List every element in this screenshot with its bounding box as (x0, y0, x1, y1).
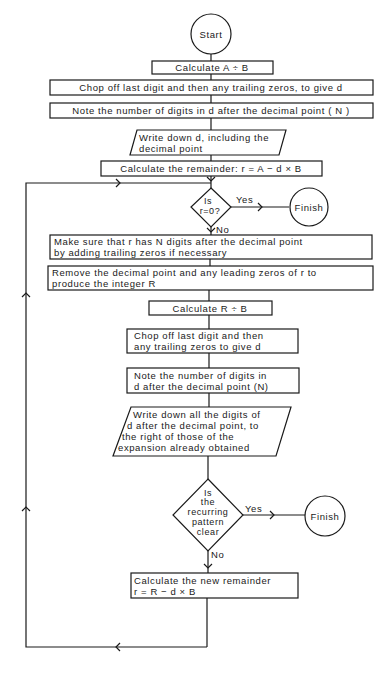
svg-text:r=0?: r=0? (200, 206, 221, 216)
svg-text:Remove the decimal point and a: Remove the decimal point and any leading… (52, 267, 317, 278)
start-terminal: Start (191, 14, 231, 54)
svg-text:Calculate A ÷ B: Calculate A ÷ B (175, 62, 248, 73)
svg-text:expansion already obtained: expansion already obtained (118, 442, 250, 453)
svg-text:produce the integer R: produce the integer R (52, 278, 156, 289)
flowchart-canvas: Start Calculate A ÷ B Chop off last digi… (0, 0, 389, 675)
svg-text:Finish: Finish (295, 202, 324, 213)
step-new-remainder: Calculate the new remainder r = R − d × … (131, 573, 298, 598)
svg-text:the right of those of the: the right of those of the (122, 431, 234, 442)
svg-text:Write down all the digits of: Write down all the digits of (133, 409, 261, 420)
step-write-d: Write down d, including the decimal poin… (130, 130, 286, 155)
no-label: No (216, 224, 229, 235)
decision-pattern-clear: Is the recurring pattern clear (173, 479, 243, 551)
svg-text:Calculate the new remainder: Calculate the new remainder (134, 575, 271, 586)
start-label: Start (199, 29, 222, 40)
step-pad-trailing-zeros: Make sure that r has N digits after the … (50, 235, 372, 259)
svg-text:r = R − d × B: r = R − d × B (134, 586, 196, 597)
step-chop-digit-1: Chop off last digit and then any trailin… (50, 80, 373, 95)
step-note-digits-1: Note the number of digits in d after the… (50, 103, 373, 118)
svg-text:d after the decimal point, to: d after the decimal point, to (127, 420, 259, 431)
no-label: No (211, 549, 224, 560)
step-chop-digit-2: Chop off last digit and then any trailin… (127, 329, 298, 353)
yes-label: Yes (236, 194, 253, 205)
step-note-digits-2: Note the number of digits in d after the… (127, 368, 299, 393)
finish-terminal-1: Finish (290, 188, 328, 226)
decision-r-equals-zero: Is r=0? (191, 188, 231, 227)
svg-text:any trailing zeros to give d: any trailing zeros to give d (134, 341, 261, 352)
svg-text:Make sure that r has N digits: Make sure that r has N digits after the … (54, 236, 303, 247)
svg-text:Note the number of digits in: Note the number of digits in (134, 370, 267, 381)
step-calculate-a-div-b: Calculate A ÷ B (152, 61, 273, 74)
svg-text:pattern: pattern (192, 517, 224, 527)
svg-text:Finish: Finish (311, 511, 340, 522)
step-calculate-remainder: Calculate the remainder: r = A − d × B (101, 161, 322, 176)
step-calculate-r-div-b: Calculate R ÷ B (149, 301, 272, 315)
svg-text:Is: Is (204, 196, 212, 206)
svg-text:Calculate the remainder: r = A: Calculate the remainder: r = A − d × B (120, 163, 302, 174)
svg-text:d after the decimal point (N): d after the decimal point (N) (134, 381, 269, 392)
svg-text:recurring: recurring (188, 507, 229, 517)
svg-text:by adding trailing zeros if ne: by adding trailing zeros if necessary (54, 247, 227, 258)
svg-text:Note the number of digits in d: Note the number of digits in d after the… (72, 105, 349, 116)
svg-text:Chop off last digit and then a: Chop off last digit and then any trailin… (79, 82, 342, 93)
svg-text:the: the (201, 497, 215, 507)
step-remove-decimal-point: Remove the decimal point and any leading… (48, 266, 373, 290)
finish-terminal-2: Finish (305, 496, 345, 536)
svg-text:Calculate R ÷ B: Calculate R ÷ B (173, 303, 248, 314)
step-write-digits: Write down all the digits of d after the… (113, 407, 291, 456)
svg-text:Chop off last digit and then: Chop off last digit and then (134, 330, 264, 341)
svg-text:decimal point: decimal point (139, 143, 203, 154)
svg-text:Write down d, including the: Write down d, including the (139, 132, 269, 143)
svg-text:clear: clear (197, 527, 220, 537)
yes-label: Yes (245, 503, 262, 514)
